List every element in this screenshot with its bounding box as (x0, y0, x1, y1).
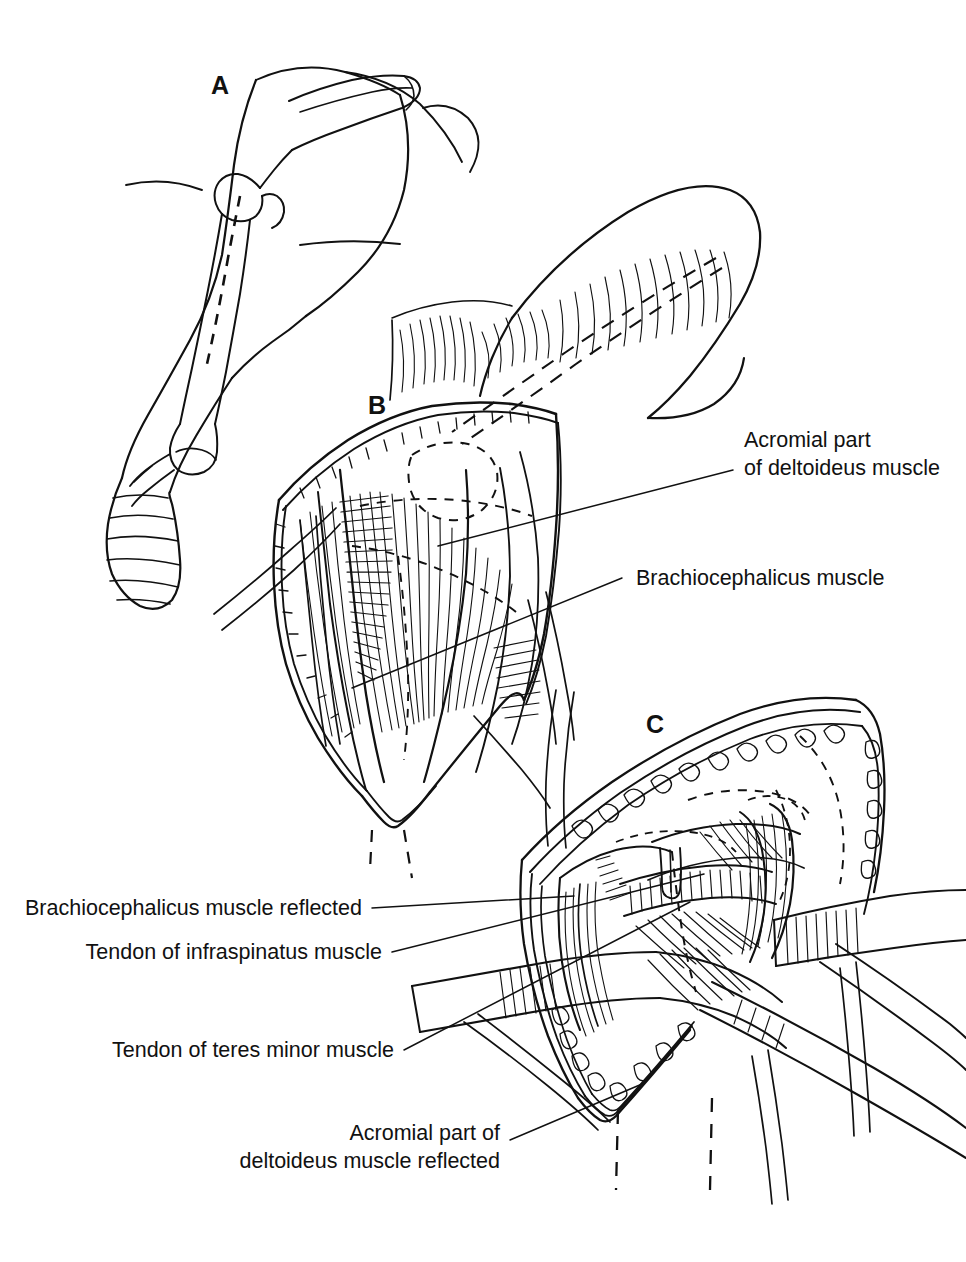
panel-letter-a: A (211, 71, 229, 99)
label-brachiocephalicus-reflected-line1: Brachiocephalicus muscle reflected (25, 896, 362, 920)
label-tendon-infraspinatus-line1: Tendon of infraspinatus muscle (86, 940, 382, 964)
label-tendon-teres-minor: Tendon of teres minor muscle (112, 1038, 394, 1062)
label-brachiocephalicus-reflected: Brachiocephalicus muscle reflected (25, 896, 362, 920)
panel-letter-b: B (368, 391, 386, 419)
label-acromial-deltoideus-reflected-line1: Acromial part of (349, 1121, 500, 1145)
panel-letter-c: C (646, 710, 664, 738)
anatomical-figure: A B C Acromial part of deltoideus muscle… (0, 0, 966, 1262)
label-tendon-infraspinatus: Tendon of infraspinatus muscle (86, 940, 382, 964)
label-brachiocephalicus-line1: Brachiocephalicus muscle (636, 566, 885, 590)
label-acromial-deltoideus-line1: Acromial part (744, 428, 871, 452)
label-brachiocephalicus: Brachiocephalicus muscle (636, 566, 885, 590)
label-tendon-teres-minor-line1: Tendon of teres minor muscle (112, 1038, 394, 1062)
figure-background (0, 0, 966, 1262)
label-acromial-deltoideus-reflected-line2: deltoideus muscle reflected (239, 1149, 500, 1173)
label-acromial-deltoideus-line2: of deltoideus muscle (744, 456, 940, 480)
